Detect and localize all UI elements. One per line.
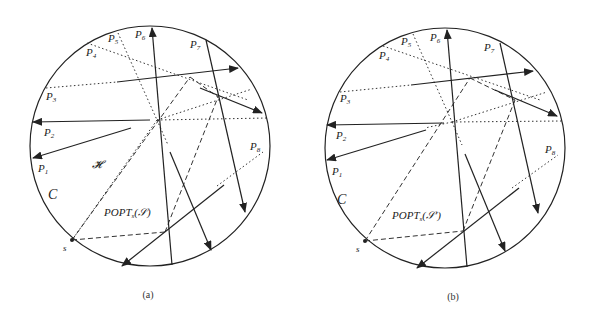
label-p6: P6 (134, 28, 146, 42)
label-p7: P7 (483, 41, 495, 55)
circle-c (30, 26, 270, 266)
label-h: 𝓗 (92, 158, 107, 170)
solid-paths (327, 30, 557, 268)
caption-b: (b) (447, 291, 459, 303)
panel-a: P1 P2 P3 P4 P5 P6 P7 P8 𝓗 C POPTs(𝒮) s (… (30, 26, 270, 301)
label-p1: P1 (331, 165, 342, 179)
label-p2: P2 (335, 129, 347, 143)
point-s (70, 238, 74, 242)
solid-paths (33, 28, 262, 266)
dotted-extensions (46, 33, 268, 240)
label-p5: P5 (400, 35, 412, 49)
label-c: C (337, 192, 347, 207)
label-p2: P2 (43, 126, 55, 140)
label-p8: P8 (249, 140, 261, 154)
diagram-canvas: P1 P2 P3 P4 P5 P6 P7 P8 𝓗 C POPTs(𝒮) s (… (0, 0, 590, 323)
label-s: s (356, 244, 360, 254)
label-p5: P5 (107, 32, 119, 46)
label-s: s (63, 243, 67, 253)
label-p4: P4 (378, 49, 390, 63)
label-p3: P3 (339, 92, 351, 106)
label-p3: P3 (45, 90, 57, 104)
dotted-extensions (340, 34, 562, 188)
label-popt: POPTs(𝒮) (103, 206, 151, 220)
label-p7: P7 (189, 38, 201, 52)
panel-b: P1 P2 P3 P4 P5 P6 P7 P8 C POPTs(𝒮′) s (b… (325, 28, 565, 303)
caption-a: (a) (142, 289, 153, 301)
point-s (363, 239, 367, 243)
label-p8: P8 (544, 143, 556, 157)
label-p6: P6 (429, 31, 441, 45)
label-popt: POPTs(𝒮′) (391, 209, 441, 223)
label-p1: P1 (37, 162, 48, 176)
label-p4: P4 (85, 46, 97, 60)
label-c: C (48, 187, 58, 202)
circle-c (325, 28, 565, 268)
